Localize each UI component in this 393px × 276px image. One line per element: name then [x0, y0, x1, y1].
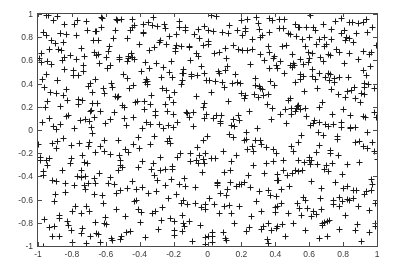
y-axis-tick-label: 0 [0, 126, 33, 135]
scatter-points-canvas [38, 14, 377, 246]
y-axis-tick-label: 0.6 [0, 56, 33, 65]
x-axis-tick-label: 0.6 [303, 250, 315, 259]
x-axis-tick-label: 0.8 [337, 250, 349, 259]
x-axis-tick-label: -0.6 [98, 250, 113, 259]
x-axis-tick-label: -1 [34, 250, 42, 259]
y-axis-tick-label: -0.2 [0, 149, 33, 158]
plot-area [37, 13, 378, 247]
y-axis-tick-label: -0.8 [0, 219, 33, 228]
x-axis-tick-label: -0.2 [166, 250, 181, 259]
x-axis-tick-label: 1 [375, 250, 380, 259]
y-axis-tick-label: -0.4 [0, 172, 33, 181]
y-axis-tick-label: 1 [0, 10, 33, 19]
x-axis-tick-label: -0.8 [65, 250, 80, 259]
x-axis-tick-label: 0 [205, 250, 210, 259]
y-axis-tick-label: -0.6 [0, 195, 33, 204]
y-axis-tick-label: 0.8 [0, 33, 33, 42]
y-axis-tick-label: 0.2 [0, 103, 33, 112]
y-axis-tick-label: -1 [0, 242, 33, 251]
x-axis-tick-label: 0.2 [235, 250, 247, 259]
scatter-plot-figure: -1-0.8-0.6-0.4-0.200.20.40.60.81-1-0.8-0… [0, 0, 393, 276]
y-axis-tick-label: 0.4 [0, 79, 33, 88]
x-axis-tick-label: -0.4 [132, 250, 147, 259]
x-axis-tick-label: 0.4 [269, 250, 281, 259]
